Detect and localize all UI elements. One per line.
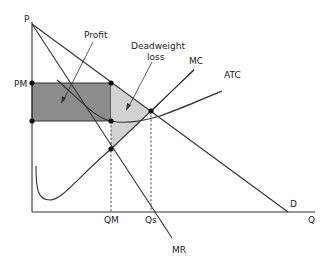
mc-mr-intersection-point <box>108 146 113 151</box>
atc-pointer <box>160 91 222 116</box>
profit-region <box>32 83 111 121</box>
mc-label: MC <box>189 56 203 66</box>
y-axis-label: P <box>24 14 30 24</box>
qs-label: Qs <box>145 215 157 225</box>
monopoly-atc-point <box>108 118 113 123</box>
mr-label: MR <box>172 245 186 255</box>
mc-pointer <box>153 69 194 110</box>
profit-label: Profit <box>84 30 108 40</box>
demand-label: D <box>290 199 297 209</box>
monopoly-demand-point <box>108 80 113 85</box>
deadweight-loss-pointer <box>128 62 152 108</box>
monopoly-diagram: P Q PM QM Qs D MR MC ATC Profit Deadweig… <box>0 0 331 266</box>
pm-point <box>29 80 34 85</box>
qm-label: QM <box>104 215 119 225</box>
atc-axis-point <box>29 118 34 123</box>
deadweight-loss-label-line2: loss <box>147 52 165 62</box>
x-axis-label: Q <box>308 215 315 225</box>
deadweight-loss-label-line1: Deadweight <box>131 41 186 51</box>
pm-label: PM <box>14 79 27 89</box>
atc-label: ATC <box>224 70 241 80</box>
competitive-equilibrium-point <box>148 108 153 113</box>
